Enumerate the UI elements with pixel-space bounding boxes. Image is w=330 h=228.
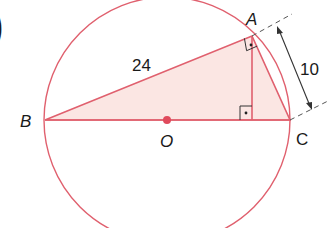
right-angle-dot-h: [245, 112, 248, 115]
center-point-o: [163, 116, 171, 124]
point-label-a: A: [245, 10, 257, 29]
length-label-ac: 10: [300, 60, 319, 79]
triangle-abc: [45, 36, 290, 120]
point-label-c: C: [296, 130, 308, 149]
length-label-ab: 24: [132, 56, 151, 75]
point-label-b: B: [20, 112, 31, 131]
arrowhead-top-icon: [277, 26, 283, 34]
point-label-o: O: [160, 132, 173, 151]
geometry-diagram: ) 24 10 A B C O: [0, 0, 330, 228]
problem-label-partial: ): [0, 4, 3, 48]
right-angle-dot-a: [250, 44, 253, 47]
arrowhead-bottom-icon: [306, 102, 312, 110]
dashed-extension-a: [252, 14, 292, 36]
